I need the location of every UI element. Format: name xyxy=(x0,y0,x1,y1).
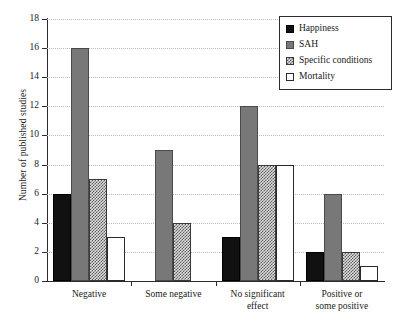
legend-item[interactable]: SAH xyxy=(286,37,386,53)
legend-label: Mortality xyxy=(299,72,335,82)
legend-item[interactable]: Specific conditions xyxy=(286,53,386,69)
y-tick-label: 2 xyxy=(13,247,39,257)
x-category-label: Positive orsome positive xyxy=(300,289,384,312)
y-tick-label: 8 xyxy=(13,160,39,170)
bar xyxy=(89,179,107,281)
bar xyxy=(222,237,240,281)
bar xyxy=(342,252,360,281)
y-tick-label: 0 xyxy=(13,276,39,286)
bar xyxy=(258,165,276,281)
bar xyxy=(155,150,173,281)
y-tick-mark xyxy=(42,281,47,282)
legend-swatch-icon xyxy=(286,25,294,33)
x-category-label: Some negative xyxy=(131,289,215,301)
y-tick-label: 6 xyxy=(13,189,39,199)
bar xyxy=(324,194,342,281)
x-tick-mark xyxy=(131,281,132,286)
legend-swatch-icon xyxy=(286,57,294,65)
bar xyxy=(107,237,125,281)
x-category-label: No significanteffect xyxy=(216,289,300,312)
legend-label: SAH xyxy=(299,40,318,50)
bar xyxy=(71,48,89,281)
legend-label: Happiness xyxy=(299,24,339,34)
legend-item[interactable]: Happiness xyxy=(286,21,386,37)
bar xyxy=(53,194,71,281)
bar xyxy=(173,223,191,281)
legend-label: Specific conditions xyxy=(299,56,372,66)
y-tick-label: 4 xyxy=(13,218,39,228)
bar xyxy=(306,252,324,281)
bar-chart: Number of published studies 024681012141… xyxy=(0,0,398,332)
y-tick-label: 16 xyxy=(13,43,39,53)
y-tick-label: 18 xyxy=(13,14,39,24)
legend-swatch-icon xyxy=(286,41,294,49)
chart-legend: HappinessSAHSpecific conditionsMortality xyxy=(279,16,392,90)
bar xyxy=(240,106,258,281)
x-category-label: Negative xyxy=(47,289,131,301)
bar xyxy=(276,165,294,281)
y-tick-label: 12 xyxy=(13,101,39,111)
x-tick-mark xyxy=(216,281,217,286)
legend-item[interactable]: Mortality xyxy=(286,69,386,85)
y-tick-label: 10 xyxy=(13,130,39,140)
bar xyxy=(360,266,378,281)
x-tick-mark xyxy=(300,281,301,286)
legend-swatch-icon xyxy=(286,73,294,81)
y-tick-label: 14 xyxy=(13,72,39,82)
